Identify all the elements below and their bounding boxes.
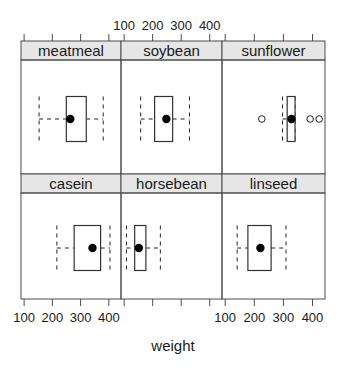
tick-label: 300 [273, 310, 295, 325]
tick-label: 400 [98, 310, 120, 325]
strip-label-meatmeal: meatmeal [38, 42, 104, 59]
tick-label: 300 [170, 18, 192, 33]
tick-label: 400 [302, 310, 324, 325]
panel-casein: casein [21, 174, 121, 299]
strip-label-horsebean: horsebean [136, 175, 207, 192]
axis-top-col2 [225, 34, 312, 41]
median-dot [287, 115, 295, 123]
median-dot [66, 115, 74, 123]
outlier-point [259, 116, 266, 123]
strip-label-casein: casein [49, 175, 92, 192]
strip-label-sunflower: sunflower [241, 42, 305, 59]
tick-label: 100 [214, 310, 236, 325]
boxplot-sunflower [259, 97, 323, 142]
panel-soybean: soybean [121, 41, 222, 174]
panel-horsebean: horsebean [121, 174, 222, 299]
boxplot-casein [57, 226, 110, 271]
panel-frame-linseed [222, 193, 325, 299]
median-dot [135, 244, 143, 252]
outlier-point [316, 116, 323, 123]
tick-label: 200 [142, 18, 164, 33]
median-dot [88, 244, 96, 252]
median-dot [256, 244, 264, 252]
panel-meatmeal: meatmeal [21, 41, 121, 174]
axis-top-col0 [24, 34, 109, 41]
x-axis-label: weight [150, 337, 195, 354]
panel-frame-casein [21, 193, 121, 299]
outlier-point [307, 116, 314, 123]
strip-label-soybean: soybean [143, 42, 200, 59]
axis-top-col1: 100200300400 [113, 18, 220, 41]
chart-canvas: meatmealsoybeansunflowercaseinhorsebeanl… [0, 0, 345, 374]
axis-bottom-col0: 100200300400 [13, 299, 119, 325]
tick-label: 100 [13, 310, 35, 325]
median-dot [162, 115, 170, 123]
tick-label: 400 [199, 18, 221, 33]
boxplot-meatmeal [39, 97, 103, 142]
boxplot-linseed [237, 226, 286, 271]
panel-linseed: linseed [222, 174, 325, 299]
axis-bottom-col2: 100200300400 [214, 299, 323, 325]
panels-group: meatmealsoybeansunflowercaseinhorsebeanl… [21, 41, 325, 299]
axes-group: 100200300400100200300400100200300400 [13, 18, 323, 325]
tick-label: 100 [113, 18, 135, 33]
tick-label: 200 [42, 310, 64, 325]
strip-label-linseed: linseed [250, 175, 298, 192]
lattice-boxplot-chart: meatmealsoybeansunflowercaseinhorsebeanl… [0, 0, 345, 374]
boxplot-horsebean [126, 226, 160, 271]
tick-label: 200 [243, 310, 265, 325]
boxplot-soybean [141, 97, 190, 142]
axis-bottom-col1 [124, 299, 210, 306]
panel-sunflower: sunflower [222, 41, 325, 174]
tick-label: 300 [70, 310, 92, 325]
